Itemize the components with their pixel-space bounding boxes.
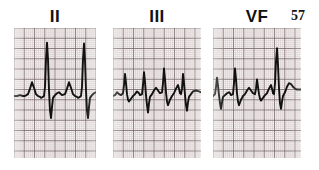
lead-label-ii: II	[30, 8, 80, 25]
ecg-strip-ii	[14, 28, 96, 158]
ecg-trace-iii	[113, 28, 201, 158]
page-number: 57	[291, 9, 305, 23]
lead-label-vf: VF	[228, 8, 286, 25]
ecg-trace-vf	[213, 28, 301, 158]
lead-label-iii: III	[128, 8, 186, 25]
ecg-strip-vf	[213, 28, 301, 158]
ecg-figure: II III VF 57	[0, 0, 319, 170]
ecg-trace-ii	[14, 28, 96, 158]
ecg-strip-iii	[113, 28, 201, 158]
